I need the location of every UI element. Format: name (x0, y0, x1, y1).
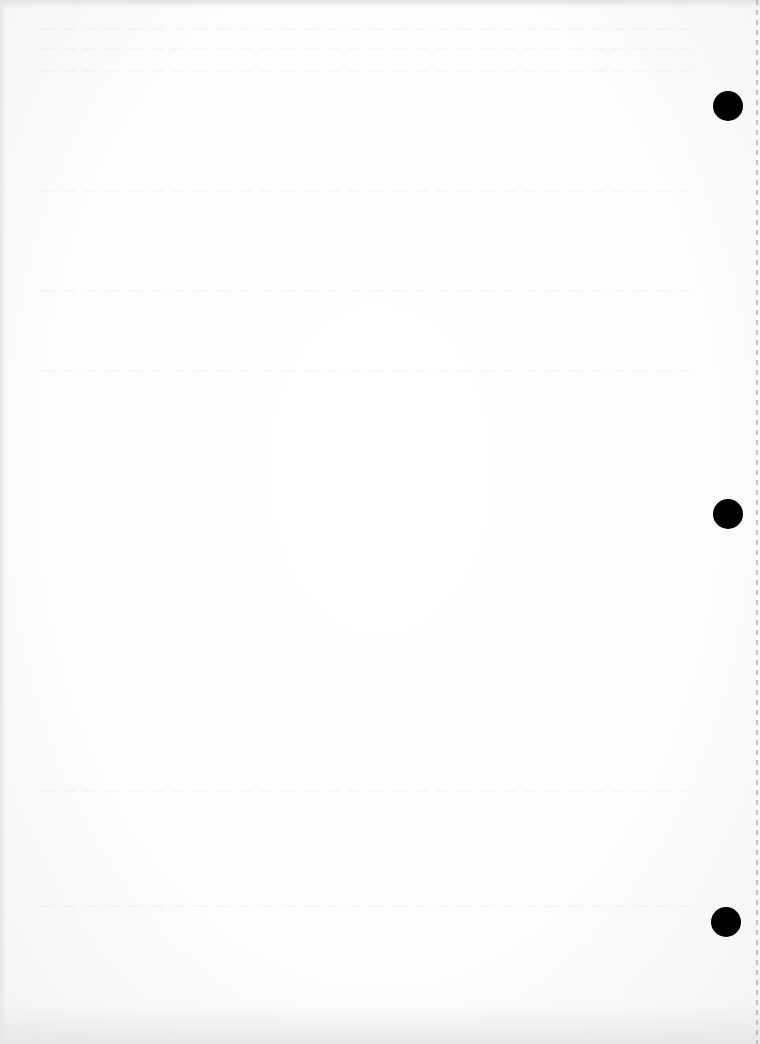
show-through-line (40, 905, 690, 907)
show-through-line (40, 190, 690, 192)
punch-hole (713, 91, 743, 121)
perforation-edge (756, 0, 758, 1044)
punch-hole (711, 907, 741, 937)
show-through-line (40, 48, 690, 50)
show-through-line (40, 70, 690, 72)
scanned-page (0, 0, 760, 1044)
show-through-line (40, 790, 690, 792)
scan-edge-shadow-top (0, 0, 760, 8)
show-through-line (40, 370, 690, 372)
scan-edge-shadow-left (0, 0, 6, 1044)
scan-edge-shadow-bottom (0, 1004, 760, 1044)
show-through-line (40, 290, 690, 292)
show-through-line (40, 28, 690, 30)
punch-hole (713, 499, 743, 529)
